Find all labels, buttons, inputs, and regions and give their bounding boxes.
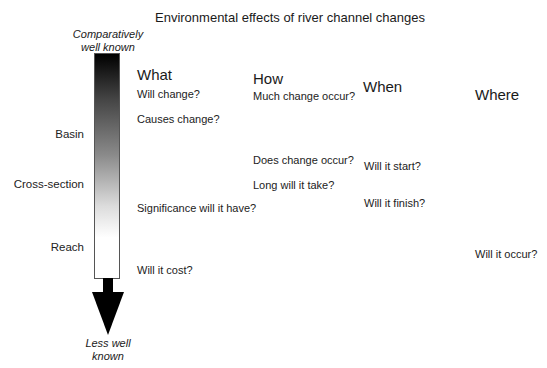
what-question: Will it cost?	[137, 264, 193, 276]
level-cross-section: Cross-section	[10, 178, 84, 190]
column-heading-what: What	[137, 66, 172, 83]
when-question: Will it start?	[364, 160, 421, 172]
what-question: Significance will it have?	[137, 202, 256, 214]
how-question: Long will it take?	[253, 179, 334, 191]
when-question: Will it finish?	[364, 197, 425, 209]
what-question: Causes change?	[137, 113, 220, 125]
level-basin: Basin	[20, 128, 84, 140]
bottom-scale-label-line1: Less well	[70, 337, 146, 350]
what-question: Will change?	[137, 88, 200, 100]
down-arrow-icon	[88, 278, 128, 338]
how-question: Does change occur?	[253, 154, 354, 166]
bottom-scale-label: Less well known	[70, 337, 146, 363]
top-scale-label: Comparatively well known	[70, 28, 146, 54]
column-heading-when: When	[363, 78, 402, 95]
how-question: Much change occur?	[253, 90, 355, 102]
level-reach: Reach	[20, 241, 84, 253]
knowledge-gradient-bar	[94, 53, 120, 279]
bottom-scale-label-line2: known	[70, 350, 146, 363]
column-heading-where: Where	[475, 86, 519, 103]
top-scale-label-line1: Comparatively	[70, 28, 146, 41]
column-heading-how: How	[253, 70, 283, 87]
where-question: Will it occur?	[475, 248, 537, 260]
diagram-title: Environmental effects of river channel c…	[155, 10, 425, 25]
